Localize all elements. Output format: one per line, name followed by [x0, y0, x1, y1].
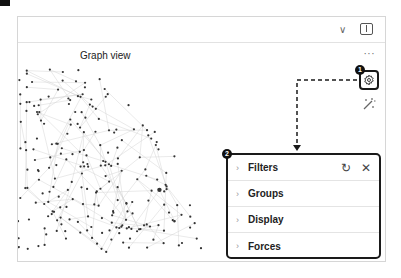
section-filters[interactable]: › Filters ↻ ✕ — [228, 155, 379, 181]
chevron-right-icon: › — [236, 215, 246, 225]
chevron-right-icon: › — [236, 163, 246, 173]
chevron-right-icon: › — [236, 241, 246, 251]
callout-badge-1: 1 — [355, 65, 365, 75]
sidebar-toggle-icon[interactable] — [360, 23, 373, 35]
corner-mark — [0, 0, 10, 6]
chevron-right-icon: › — [236, 189, 246, 199]
graph-canvas[interactable] — [18, 63, 238, 262]
gear-icon — [363, 74, 375, 86]
section-label: Forces — [248, 241, 281, 252]
graph-settings-panel: › Filters ↻ ✕ › Groups › Display › Force… — [226, 153, 381, 259]
close-icon[interactable]: ✕ — [361, 161, 371, 175]
magic-wand-icon[interactable] — [362, 97, 376, 111]
chevron-down-icon[interactable]: ∨ — [335, 23, 349, 37]
callout-badge-2: 2 — [222, 149, 232, 159]
section-label: Display — [248, 214, 284, 225]
section-label: Groups — [248, 188, 284, 199]
section-groups[interactable]: › Groups — [228, 181, 379, 207]
reset-icon[interactable]: ↻ — [341, 161, 351, 175]
section-forces[interactable]: › Forces — [228, 233, 379, 259]
view-title: Graph view — [80, 50, 131, 61]
tab-bar: ∨ — [18, 17, 385, 43]
section-display[interactable]: › Display — [228, 207, 379, 233]
more-options-button[interactable]: ··· — [364, 48, 376, 59]
section-label: Filters — [248, 162, 278, 173]
